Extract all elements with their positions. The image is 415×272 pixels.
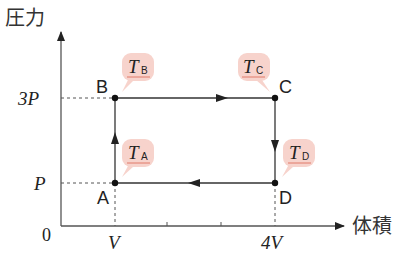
arrow-left-icon — [188, 179, 200, 187]
temp-bubble-b: T B — [122, 53, 154, 92]
svg-text:C: C — [256, 65, 263, 76]
point-b — [112, 95, 118, 101]
label-a: A — [97, 188, 109, 208]
label-d: D — [279, 188, 292, 208]
arrow-up-icon — [111, 132, 119, 144]
pv-diagram-svg: T B T C T A T D A B C D 圧力 体積 0 3P P V 4… — [0, 0, 415, 272]
svg-text:B: B — [141, 65, 148, 76]
y-axis-label: 圧力 — [5, 6, 45, 30]
x-axis-label: 体積 — [352, 214, 392, 238]
point-c — [272, 95, 278, 101]
y-tick-p: P — [33, 173, 46, 194]
point-a — [112, 180, 118, 186]
svg-text:T: T — [243, 56, 255, 77]
label-c: C — [279, 77, 292, 97]
y-tick-3p: 3P — [17, 88, 40, 109]
x-tick-v: V — [108, 232, 122, 253]
label-b: B — [96, 77, 108, 97]
temp-bubble-a: T A — [122, 139, 154, 177]
temp-bubble-c: T C — [238, 53, 270, 92]
svg-text:T: T — [128, 142, 140, 163]
temp-bubble-d: T D — [282, 139, 315, 177]
svg-text:A: A — [141, 151, 148, 162]
svg-text:T: T — [289, 142, 301, 163]
arrow-right-icon — [216, 94, 228, 102]
point-d — [272, 180, 278, 186]
arrow-down-icon — [271, 140, 279, 152]
pv-diagram: T B T C T A T D A B C D 圧力 体積 0 3P P V 4… — [0, 0, 415, 272]
x-tick-4v: 4V — [261, 232, 285, 253]
svg-text:D: D — [302, 151, 309, 162]
origin-label: 0 — [42, 225, 51, 245]
svg-text:T: T — [128, 56, 140, 77]
